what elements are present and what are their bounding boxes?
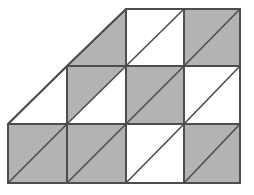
shaded-grid-figure	[0, 0, 254, 195]
figure-stage	[0, 0, 254, 195]
